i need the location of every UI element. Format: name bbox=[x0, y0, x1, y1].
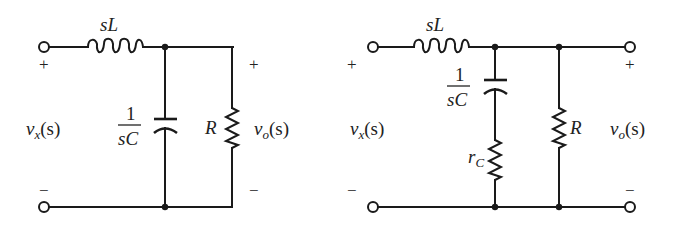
circuit-figure: sL + − + − vx(s) 1 sC R vo(s) bbox=[0, 0, 675, 234]
output-voltage-label: vo(s) bbox=[610, 118, 645, 142]
inductor bbox=[414, 39, 469, 53]
circuit-left: sL + − + − vx(s) 1 sC R vo(s) bbox=[26, 14, 289, 212]
input-voltage-label: vx(s) bbox=[350, 118, 384, 142]
output-minus: − bbox=[249, 181, 259, 200]
output-terminal-bottom bbox=[625, 202, 635, 212]
input-terminal-top bbox=[39, 42, 49, 52]
inductor bbox=[88, 39, 143, 53]
input-terminal-bottom bbox=[39, 202, 49, 212]
capacitor-label-numerator: 1 bbox=[455, 64, 465, 85]
input-plus: + bbox=[39, 55, 49, 74]
output-plus: + bbox=[625, 55, 635, 74]
resistor-R bbox=[226, 108, 238, 148]
input-plus: + bbox=[347, 55, 357, 74]
input-voltage-label: vx(s) bbox=[26, 118, 60, 142]
output-terminal-top bbox=[625, 42, 635, 52]
junction-node bbox=[556, 204, 562, 210]
junction-node bbox=[162, 204, 168, 210]
inductor-label: sL bbox=[426, 14, 444, 35]
output-plus: + bbox=[249, 55, 259, 74]
resistor-label: R bbox=[569, 117, 582, 138]
capacitor-label-denominator: sC bbox=[118, 128, 138, 149]
resistor-label: R bbox=[204, 117, 217, 138]
output-voltage-label: vo(s) bbox=[254, 118, 289, 142]
input-minus: − bbox=[39, 181, 49, 200]
input-minus: − bbox=[347, 181, 357, 200]
input-terminal-bottom bbox=[368, 202, 378, 212]
circuit-right: sL + − + − vx(s) 1 sC rC R vo(s) bbox=[347, 14, 645, 212]
junction-node bbox=[492, 204, 498, 210]
output-minus: − bbox=[625, 181, 635, 200]
resistor-R bbox=[553, 108, 565, 148]
esr-label: rC bbox=[468, 146, 484, 170]
input-terminal-top bbox=[368, 42, 378, 52]
capacitor-label-denominator: sC bbox=[447, 89, 467, 110]
capacitor-label-numerator: 1 bbox=[126, 103, 136, 124]
inductor-label: sL bbox=[100, 14, 118, 35]
resistor-rC bbox=[489, 140, 501, 180]
